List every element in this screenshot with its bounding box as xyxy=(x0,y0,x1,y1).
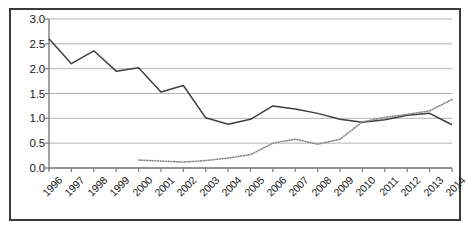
y-axis-labels: 0.00.51.01.52.02.53.0 xyxy=(15,10,45,219)
y-axis-tick-label: 1.0 xyxy=(30,112,45,124)
y-axis-tick-label: 2.5 xyxy=(30,38,45,50)
y-axis-tick-label: 0.0 xyxy=(30,162,45,174)
line-chart: 0.00.51.01.52.02.53.0 199619971998199920… xyxy=(11,10,459,219)
y-axis-tick-label: 1.5 xyxy=(30,88,45,100)
y-axis-tick-label: 2.0 xyxy=(30,63,45,75)
y-axis-tick-label: 0.5 xyxy=(30,137,45,149)
y-axis-tick-label: 3.0 xyxy=(30,13,45,25)
chart-frame: 0.00.51.01.52.02.53.0 199619971998199920… xyxy=(9,8,461,221)
series-line-solid-series xyxy=(49,39,452,125)
plot-area xyxy=(11,10,463,219)
